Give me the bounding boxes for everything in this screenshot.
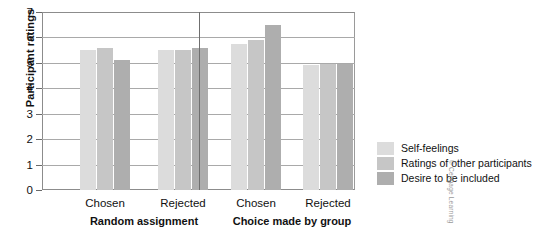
panel-label: Random assignment — [90, 215, 198, 227]
x-category-label: Rejected — [305, 197, 350, 209]
y-tick-label: 4 — [27, 82, 33, 94]
bar — [192, 48, 208, 190]
y-tick — [36, 165, 42, 166]
bar — [114, 60, 130, 190]
y-tick-label: 0 — [27, 184, 33, 196]
y-tick — [36, 37, 42, 38]
bar — [265, 25, 281, 190]
copyright-credit: © Cengage Learning — [448, 160, 455, 243]
bar — [303, 65, 319, 190]
bar — [175, 50, 191, 190]
bar — [248, 40, 264, 190]
x-category-label: Chosen — [85, 197, 125, 209]
legend-swatch — [377, 142, 394, 155]
panel-label: Choice made by group — [233, 215, 352, 227]
legend-label: Self-feelings — [401, 142, 459, 154]
y-tick-label: 2 — [27, 133, 33, 145]
y-tick-label: 6 — [27, 31, 33, 43]
x-category-label: Chosen — [236, 197, 276, 209]
bar — [80, 50, 96, 190]
bar — [320, 64, 336, 190]
bar — [97, 48, 113, 190]
y-tick — [36, 114, 42, 115]
y-tick — [36, 88, 42, 89]
plot-area: 01234567 — [42, 12, 355, 190]
chart-figure: Participant ratings 01234567 ChosenRejec… — [0, 0, 539, 243]
y-tick — [36, 139, 42, 140]
legend-swatch — [377, 172, 394, 185]
y-tick-label: 5 — [27, 57, 33, 69]
y-tick-label: 1 — [27, 159, 33, 171]
y-tick — [36, 12, 42, 13]
y-tick — [36, 63, 42, 64]
panel-divider — [199, 12, 200, 190]
legend-label: Ratings of other participants — [401, 157, 532, 169]
y-tick-label: 3 — [27, 108, 33, 120]
y-tick-label: 7 — [27, 6, 33, 18]
y-tick — [36, 190, 42, 191]
legend-swatch — [377, 157, 394, 170]
bar — [337, 64, 353, 190]
x-category-label: Rejected — [160, 197, 205, 209]
legend-item: Self-feelings — [377, 141, 532, 155]
bar — [158, 50, 174, 190]
bar — [231, 44, 247, 190]
